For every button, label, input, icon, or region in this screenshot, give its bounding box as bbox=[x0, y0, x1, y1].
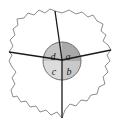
quadrant-label-a: a bbox=[66, 51, 71, 62]
diagram-canvas: a b c d bbox=[0, 0, 119, 124]
quadrant-label-c: c bbox=[52, 66, 57, 77]
quadrant-label-b: b bbox=[67, 66, 72, 77]
cell-sector-diagram: a b c d bbox=[0, 0, 119, 124]
